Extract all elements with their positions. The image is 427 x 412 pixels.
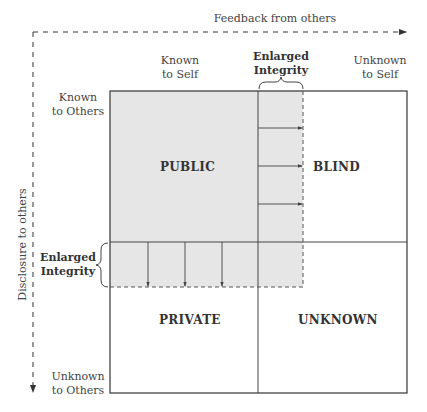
enlarged-public-area [110,91,303,287]
quadrant-public: PUBLIC [160,160,215,174]
enlarged-integrity-top-label: Enlarged Integrity [245,50,317,78]
column-header-unknown-to-self: Unknown to Self [345,54,415,82]
axis-label-disclosure: Disclosure to others [16,185,29,305]
column-header-known-to-self: Known to Self [140,54,220,82]
quadrant-blind: BLIND [313,160,360,174]
row-header-known-to-others: Known to Others [48,91,108,119]
top-brace-icon [259,77,303,89]
quadrant-unknown: UNKNOWN [298,313,378,327]
quadrant-private: PRIVATE [159,313,221,327]
enlarged-integrity-left-label: Enlarged Integrity [40,251,96,279]
axis-label-feedback: Feedback from others [190,12,360,26]
row-header-unknown-to-others: Unknown to Others [48,370,108,398]
left-brace-icon [96,243,108,287]
